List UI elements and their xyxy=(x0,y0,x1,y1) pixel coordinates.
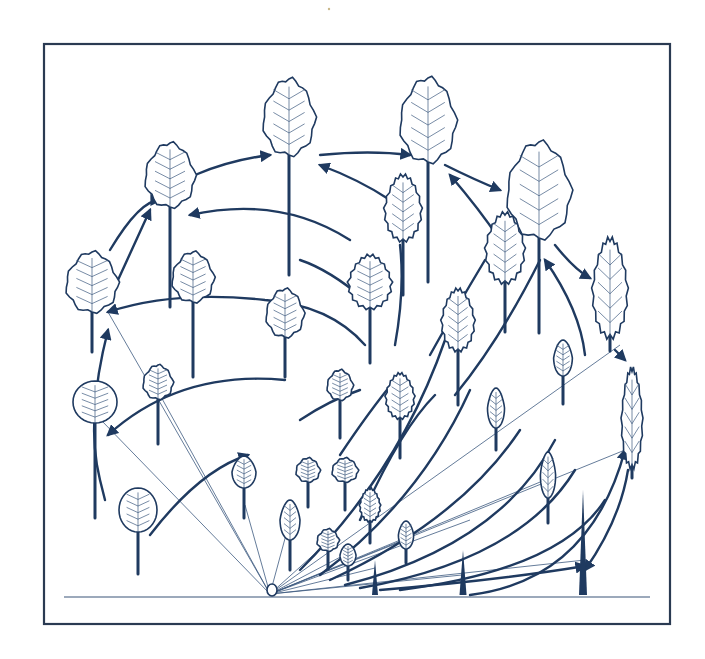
arrow-curve xyxy=(320,165,390,200)
ray-line xyxy=(108,312,270,594)
leaf-icon xyxy=(347,254,392,363)
arrow-curve xyxy=(108,379,285,435)
leaf-icon xyxy=(488,388,505,450)
figure-caption-cutoff xyxy=(90,652,650,659)
leaf-blade xyxy=(145,142,196,209)
arrow-curve xyxy=(615,350,625,360)
leaf-icon xyxy=(232,456,256,518)
arrow-curve xyxy=(320,153,410,156)
leaf-icon xyxy=(266,288,305,377)
leaf-icon xyxy=(280,500,300,570)
leaf-blade xyxy=(327,369,354,400)
ray-line xyxy=(160,395,270,594)
leaf-icon xyxy=(119,488,157,574)
leaf-icon xyxy=(554,340,573,404)
leaf-icon xyxy=(327,369,354,438)
leaf-icon xyxy=(143,364,174,444)
ray-line xyxy=(270,560,585,594)
leaf-blade xyxy=(172,251,215,303)
leaf-icon xyxy=(73,381,117,518)
leaf-blade xyxy=(400,76,458,164)
leaf-icon xyxy=(263,77,317,275)
leaf-icon xyxy=(296,458,321,508)
leaf-icon xyxy=(540,452,555,523)
leaf-icon xyxy=(592,237,629,351)
arrow-curve xyxy=(555,245,590,278)
arrow-curve xyxy=(108,297,365,345)
arrow-curve xyxy=(585,470,628,570)
leaf-icon xyxy=(332,458,359,511)
scan-speck xyxy=(328,8,330,10)
leaf-icon xyxy=(621,367,643,478)
leaf-icon xyxy=(385,373,415,458)
arrow-curve xyxy=(195,155,270,175)
leaf-icon xyxy=(441,288,476,405)
leaf-blade xyxy=(266,288,305,338)
ray-line xyxy=(270,345,620,594)
arrow-curve xyxy=(118,210,150,280)
leaf-morphospace-figure xyxy=(0,0,705,659)
linear-leaf-icon xyxy=(579,490,587,595)
leaf-blade xyxy=(66,251,120,314)
leaf-icon xyxy=(398,521,413,563)
arrow-curve xyxy=(395,245,402,345)
origin-seedling-icon xyxy=(267,584,277,596)
leaf-icon xyxy=(359,488,381,543)
linear-leaf-icon xyxy=(460,550,467,595)
arrow-curve xyxy=(190,209,350,240)
leaf-icon xyxy=(66,251,120,352)
leaf-blade xyxy=(263,77,317,156)
leaf-icon xyxy=(172,251,215,377)
